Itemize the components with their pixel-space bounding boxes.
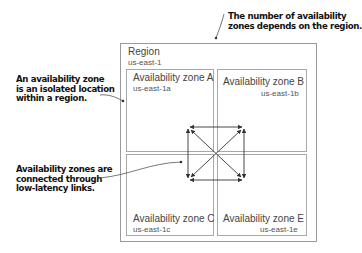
leader-line-links (100, 162, 181, 178)
links-group (188, 127, 244, 180)
leader-line-top (216, 14, 224, 38)
leader-line-isolated (100, 95, 123, 101)
